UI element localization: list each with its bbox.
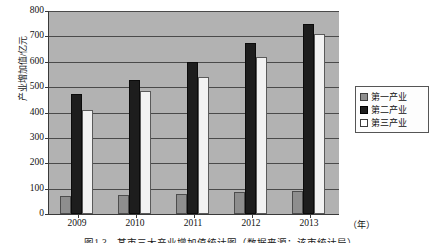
bar-2009-series-3[interactable] — [82, 110, 93, 214]
y-tick-mark-500 — [45, 87, 49, 88]
legend-item-second-industry[interactable]: 第二产业 — [360, 103, 425, 116]
x-tick-label-2012: 2012 — [221, 218, 281, 228]
y-tick-label-100: 100 — [3, 184, 44, 194]
legend-swatch-icon-first-industry — [360, 93, 368, 101]
bar-2010-series-2[interactable] — [129, 80, 140, 214]
y-tick-mark-0 — [45, 214, 49, 215]
y-tick-mark-700 — [45, 36, 49, 37]
bar-2011-series-2[interactable] — [187, 62, 198, 214]
bar-2013-series-2[interactable] — [303, 24, 314, 214]
legend-label-third-industry: 第三产业 — [371, 116, 407, 129]
legend-swatch-icon-third-industry — [360, 119, 368, 127]
x-tick-label-2010: 2010 — [105, 218, 165, 228]
legend-label-second-industry: 第二产业 — [371, 103, 407, 116]
bar-2011-series-1[interactable] — [176, 194, 187, 214]
gridline-700 — [49, 36, 339, 37]
y-tick-mark-300 — [45, 138, 49, 139]
y-tick-mark-400 — [45, 113, 49, 114]
y-tick-label-800: 800 — [3, 6, 44, 16]
bar-2009-series-2[interactable] — [71, 94, 82, 214]
y-tick-label-500: 500 — [3, 82, 44, 92]
gridline-800 — [49, 11, 339, 12]
figure-container: 产业增加值/亿元 0100200300400500600700800 第一产业 … — [0, 0, 441, 243]
y-tick-mark-100 — [45, 189, 49, 190]
legend-item-first-industry[interactable]: 第一产业 — [360, 90, 425, 103]
x-tick-label-2011: 2011 — [163, 218, 223, 228]
y-tick-label-300: 300 — [3, 133, 44, 143]
legend: 第一产业 第二产业 第三产业 — [355, 86, 429, 133]
legend-swatch-icon-second-industry — [360, 106, 368, 114]
y-tick-mark-800 — [45, 11, 49, 12]
bar-2011-series-3[interactable] — [198, 77, 209, 214]
x-tick-label-2013: 2013 — [279, 218, 339, 228]
figure-caption: 图1-3 某市三大产业增加值统计图（数据来源：该市统计局） — [0, 235, 441, 243]
x-tick-label-2009: 2009 — [47, 218, 107, 228]
y-tick-label-0: 0 — [3, 209, 44, 219]
bar-2010-series-1[interactable] — [118, 195, 129, 214]
x-axis-unit-label: （年） — [348, 218, 375, 231]
y-tick-mark-600 — [45, 62, 49, 63]
y-tick-label-600: 600 — [3, 57, 44, 67]
y-tick-mark-200 — [45, 163, 49, 164]
y-tick-label-200: 200 — [3, 158, 44, 168]
bar-2012-series-1[interactable] — [234, 192, 245, 214]
bar-2012-series-3[interactable] — [256, 57, 267, 214]
legend-item-third-industry[interactable]: 第三产业 — [360, 116, 425, 129]
bar-2009-series-1[interactable] — [60, 196, 71, 214]
bar-2012-series-2[interactable] — [245, 43, 256, 214]
bar-2010-series-3[interactable] — [140, 91, 151, 214]
y-tick-label-700: 700 — [3, 31, 44, 41]
y-tick-label-400: 400 — [3, 108, 44, 118]
plot-area: 0100200300400500600700800 — [48, 11, 339, 215]
bar-2013-series-3[interactable] — [314, 34, 325, 214]
bar-2013-series-1[interactable] — [292, 191, 303, 214]
legend-label-first-industry: 第一产业 — [371, 90, 407, 103]
